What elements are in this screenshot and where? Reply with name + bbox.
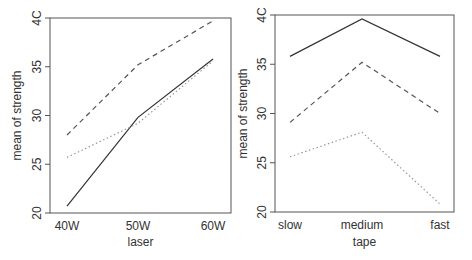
x-tick-label: medium: [341, 218, 384, 232]
y-axis-title: mean of strength: [236, 68, 250, 158]
tape-interaction-plot: 202530354Cslowmediumfasttapemean of stre…: [236, 7, 454, 249]
y-tick-label: 30: [30, 109, 44, 123]
x-tick-label: slow: [278, 218, 302, 232]
series-line-dashed: [67, 21, 213, 135]
y-tick-label: 25: [30, 157, 44, 171]
y-tick-label: 4C: [255, 7, 269, 23]
interaction-plots: 202530354C40W50W60Wlasermean of strength…: [0, 0, 472, 260]
x-tick-label: 60W: [201, 219, 226, 233]
x-axis-title: laser: [127, 235, 153, 249]
y-tick-label: 20: [30, 206, 44, 220]
series-line-dashed: [290, 62, 440, 122]
series-line-dotted: [290, 132, 440, 204]
y-tick-label: 30: [255, 107, 269, 121]
x-tick-label: 40W: [55, 219, 80, 233]
y-tick-label: 35: [255, 57, 269, 71]
y-tick-label: 25: [255, 156, 269, 170]
y-tick-label: 4C: [30, 10, 44, 26]
series-line-solid: [290, 19, 440, 57]
x-tick-label: 50W: [126, 219, 151, 233]
laser-interaction-plot: 202530354C40W50W60Wlasermean of strength: [10, 10, 231, 249]
y-axis-title: mean of strength: [10, 70, 24, 160]
plot-frame: [275, 15, 454, 212]
x-tick-label: fast: [430, 218, 450, 232]
series-line-solid: [67, 59, 213, 206]
y-tick-label: 20: [255, 205, 269, 219]
y-tick-label: 35: [30, 60, 44, 74]
x-axis-title: tape: [353, 235, 377, 249]
